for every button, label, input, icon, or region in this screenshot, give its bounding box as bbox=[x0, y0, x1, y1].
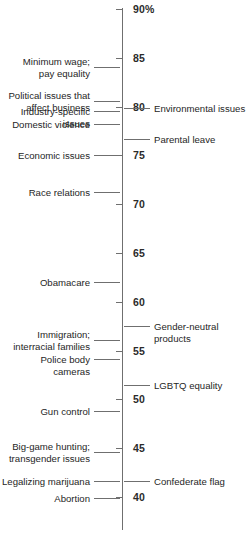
data-point-label: Gun control bbox=[2, 406, 90, 418]
axis-tick bbox=[116, 399, 123, 400]
data-point-label: Parental leave bbox=[154, 134, 250, 146]
point-leader-line bbox=[94, 498, 120, 499]
point-leader-line bbox=[94, 452, 120, 453]
point-leader-line bbox=[124, 108, 150, 109]
point-leader-line bbox=[94, 192, 120, 193]
point-leader-line bbox=[94, 481, 120, 482]
axis-tick-label: 65 bbox=[133, 248, 145, 259]
axis-tick bbox=[116, 9, 123, 10]
data-point-label: Economic issues bbox=[2, 150, 90, 162]
point-leader-line bbox=[94, 124, 120, 125]
axis-tick bbox=[116, 58, 123, 59]
point-leader-line bbox=[94, 282, 120, 283]
data-point-label: Obamacare bbox=[2, 277, 90, 289]
axis-tick-label: 70 bbox=[133, 199, 145, 210]
axis-tick bbox=[116, 107, 123, 108]
data-point-label: Police body cameras bbox=[2, 354, 90, 377]
point-leader-line bbox=[94, 411, 120, 412]
axis-tick-label: 40 bbox=[133, 492, 145, 503]
vertical-axis bbox=[122, 8, 123, 530]
point-leader-line bbox=[94, 101, 120, 102]
data-point-label: Immigration; interracial families bbox=[2, 329, 90, 352]
point-leader-line bbox=[124, 326, 150, 327]
point-leader-line bbox=[94, 359, 120, 360]
data-point-label: Confederate flag bbox=[154, 476, 250, 488]
data-point-label: Environmental issues bbox=[154, 103, 250, 115]
data-point-label: LGBTQ equality bbox=[154, 380, 250, 392]
number-line-chart: 90%85807570656055504540Minimum wage; pay… bbox=[0, 0, 252, 545]
axis-tick-label: 45 bbox=[133, 443, 145, 454]
axis-tick-label: 75 bbox=[133, 150, 145, 161]
data-point-label: Race relations bbox=[2, 187, 90, 199]
data-point-label: Domestic violence bbox=[2, 119, 90, 131]
data-point-label: Minimum wage; pay equality bbox=[2, 56, 90, 79]
axis-tick bbox=[116, 448, 123, 449]
point-leader-line bbox=[94, 155, 120, 156]
axis-tick-label: 85 bbox=[133, 53, 145, 64]
axis-tick bbox=[116, 351, 123, 352]
axis-tick-label: 50 bbox=[133, 394, 145, 405]
axis-tick bbox=[116, 253, 123, 254]
data-point-label: Legalizing marijuana bbox=[2, 476, 90, 488]
data-point-label: Big-game hunting; transgender issues bbox=[2, 441, 90, 464]
point-leader-line bbox=[94, 67, 120, 68]
data-point-label: Gender-neutral products bbox=[154, 321, 250, 344]
point-leader-line bbox=[124, 481, 150, 482]
point-leader-line bbox=[94, 111, 120, 112]
axis-tick-label: 60 bbox=[133, 297, 145, 308]
point-leader-line bbox=[124, 139, 150, 140]
point-leader-line bbox=[124, 385, 150, 386]
point-leader-line bbox=[94, 340, 120, 341]
axis-tick bbox=[116, 204, 123, 205]
data-point-label: Abortion bbox=[2, 493, 90, 505]
axis-tick-label: 90% bbox=[133, 4, 154, 15]
axis-tick-label: 55 bbox=[133, 346, 145, 357]
axis-tick bbox=[116, 302, 123, 303]
